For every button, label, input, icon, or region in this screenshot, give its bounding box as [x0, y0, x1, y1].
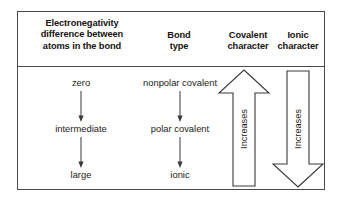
column-header-ionic-character: Ionic character	[270, 12, 326, 52]
column-header-line: Bond	[140, 30, 218, 41]
figure-frame: Electronegativity difference between ato…	[17, 11, 325, 190]
covalent-character-trend-label: Increases	[239, 109, 249, 149]
table-body: zero intermediate large nonpolar covalen…	[18, 67, 324, 190]
value-electronegativity-1: zero	[20, 77, 142, 88]
column-header-line: type	[140, 41, 218, 52]
down-arrow-icon	[176, 91, 185, 122]
down-arrow-icon	[176, 137, 185, 168]
column-header-line: difference between	[20, 29, 144, 40]
column-header-line: character	[270, 41, 326, 52]
value-electronegativity-3: large	[20, 169, 142, 180]
ionic-character-trend-label: Increases	[293, 109, 303, 149]
ionic-character-down-arrow: Increases	[270, 67, 326, 190]
column-header-electronegativity: Electronegativity difference between ato…	[20, 12, 144, 52]
column-header-line: atoms in the bond	[20, 41, 144, 52]
covalent-character-up-arrow: Increases	[214, 67, 274, 190]
column-electronegativity-values: zero intermediate large	[20, 67, 142, 190]
column-header-line: Electronegativity	[20, 18, 144, 29]
down-arrow-icon	[77, 137, 86, 168]
column-header-line: Ionic	[270, 30, 326, 41]
value-electronegativity-2: intermediate	[20, 123, 142, 134]
table-header-row: Electronegativity difference between ato…	[18, 12, 324, 67]
down-arrow-icon	[77, 91, 86, 122]
column-header-bond-type: Bond type	[140, 12, 218, 52]
